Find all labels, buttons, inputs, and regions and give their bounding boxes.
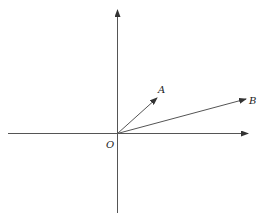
vector-b-label: B xyxy=(248,95,256,106)
origin-label: O xyxy=(106,139,114,150)
vector-a-label: A xyxy=(157,84,165,95)
coordinate-diagram: A B O xyxy=(0,0,259,219)
